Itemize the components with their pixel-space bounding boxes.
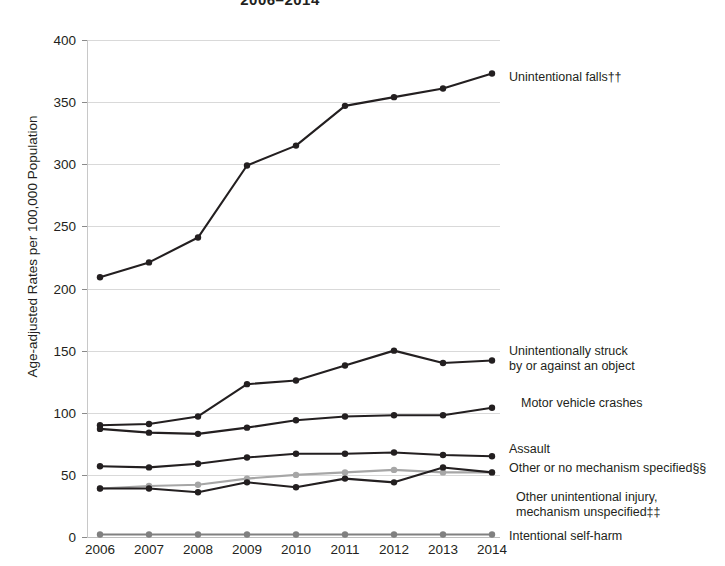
legend-label: Assault bbox=[509, 442, 550, 457]
data-point bbox=[293, 142, 299, 148]
legend-label: Other unintentional injury, mechanism un… bbox=[516, 490, 661, 520]
data-point bbox=[391, 94, 397, 100]
data-point bbox=[440, 464, 446, 470]
legend-label: Unintentional falls†† bbox=[509, 70, 622, 85]
data-point bbox=[489, 70, 495, 76]
data-point bbox=[391, 531, 397, 537]
data-point bbox=[146, 531, 152, 537]
data-point bbox=[244, 381, 250, 387]
series-line bbox=[100, 74, 492, 278]
data-point bbox=[244, 479, 250, 485]
legend-label: Other or no mechanism specified§§ bbox=[509, 461, 706, 476]
data-point bbox=[489, 357, 495, 363]
data-point bbox=[195, 460, 201, 466]
legend-label: Motor vehicle crashes bbox=[521, 396, 643, 411]
data-point bbox=[146, 429, 152, 435]
data-point bbox=[146, 421, 152, 427]
data-point bbox=[489, 453, 495, 459]
data-point bbox=[146, 259, 152, 265]
legend-label: Unintentionally struck by or against an … bbox=[509, 344, 635, 374]
data-point bbox=[195, 482, 201, 488]
data-point bbox=[97, 463, 103, 469]
data-point bbox=[97, 274, 103, 280]
data-point bbox=[391, 467, 397, 473]
data-point bbox=[195, 431, 201, 437]
data-point bbox=[195, 413, 201, 419]
data-point bbox=[293, 484, 299, 490]
data-point bbox=[97, 426, 103, 432]
line-chart: 2006–2014 Age-adjusted Rates per 100,000… bbox=[0, 0, 725, 566]
data-point bbox=[440, 360, 446, 366]
data-point bbox=[293, 472, 299, 478]
data-point bbox=[293, 377, 299, 383]
data-point bbox=[97, 485, 103, 491]
data-point bbox=[440, 531, 446, 537]
series-line bbox=[100, 351, 492, 426]
data-point bbox=[489, 469, 495, 475]
data-point bbox=[440, 85, 446, 91]
data-point bbox=[440, 452, 446, 458]
data-point bbox=[489, 405, 495, 411]
data-point bbox=[195, 489, 201, 495]
data-point bbox=[342, 475, 348, 481]
data-point bbox=[342, 413, 348, 419]
data-point bbox=[391, 347, 397, 353]
data-point bbox=[244, 454, 250, 460]
data-point bbox=[342, 451, 348, 457]
data-point bbox=[244, 162, 250, 168]
data-point bbox=[391, 412, 397, 418]
data-point bbox=[97, 531, 103, 537]
data-point bbox=[391, 449, 397, 455]
data-point bbox=[293, 451, 299, 457]
data-point bbox=[244, 424, 250, 430]
data-point bbox=[391, 479, 397, 485]
data-point bbox=[244, 531, 250, 537]
data-point bbox=[342, 469, 348, 475]
data-point bbox=[195, 234, 201, 240]
data-point bbox=[195, 531, 201, 537]
data-point bbox=[342, 103, 348, 109]
data-point bbox=[146, 464, 152, 470]
legend-label: Intentional self-harm bbox=[509, 529, 622, 544]
data-point bbox=[146, 485, 152, 491]
data-point bbox=[342, 362, 348, 368]
data-point bbox=[342, 531, 348, 537]
data-point bbox=[440, 412, 446, 418]
data-point bbox=[293, 531, 299, 537]
data-point bbox=[489, 531, 495, 537]
data-point bbox=[293, 417, 299, 423]
